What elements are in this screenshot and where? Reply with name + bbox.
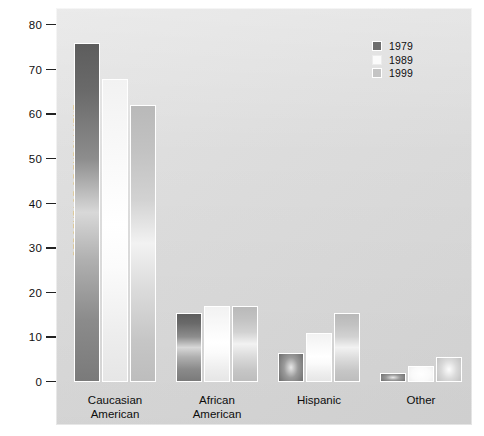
y-axis-tick-label: 10 (29, 330, 42, 344)
legend-item-1999: 1999 (372, 67, 413, 79)
y-axis-tick-label: 70 (29, 63, 42, 77)
y-axis-tick: 40 (0, 197, 56, 211)
legend-item-1989: 1989 (372, 54, 413, 66)
bar-1979-2 (176, 313, 202, 382)
bar-1989-1 (102, 79, 128, 382)
y-axis-tick-label: 50 (29, 152, 42, 166)
bar-1999-3 (334, 313, 360, 382)
y-axis-tick-label: 40 (29, 197, 42, 211)
x-axis-label-line1: Other (361, 394, 481, 408)
y-axis-tick-mark (46, 247, 56, 248)
y-axis-tick: 10 (0, 330, 56, 344)
legend-label-1979: 1979 (389, 40, 413, 52)
y-axis-tick-label: 30 (29, 241, 42, 255)
bar-1979-1 (74, 43, 100, 382)
y-axis-tick-mark (46, 113, 56, 114)
chart-screenshot: 01020304050607080 PERCENTAGE OF ENROLLME… (0, 0, 484, 436)
legend-item-1979: 1979 (372, 40, 413, 52)
y-axis-tick: 30 (0, 241, 56, 255)
bar-1979-4 (380, 373, 406, 382)
y-axis-tick-mark (46, 69, 56, 70)
y-axis-tick-label: 0 (35, 375, 42, 389)
y-axis-tick: 50 (0, 152, 56, 166)
chart-legend: 197919891999 (372, 40, 413, 81)
y-axis-tick: 0 (0, 375, 56, 389)
y-axis-tick: 60 (0, 107, 56, 121)
legend-swatch-1999 (372, 68, 382, 78)
y-axis-tick: 70 (0, 63, 56, 77)
y-axis-tick: 20 (0, 286, 56, 300)
bar-1979-3 (278, 353, 304, 382)
y-axis-tick-mark (46, 381, 56, 382)
bar-1999-1 (130, 105, 156, 382)
bar-1989-4 (408, 366, 434, 382)
legend-label-1989: 1989 (389, 54, 413, 66)
x-axis-label-line2: American (157, 408, 277, 422)
bar-1989-2 (204, 306, 230, 382)
y-axis-tick-mark (46, 336, 56, 337)
y-axis-tick-mark (46, 203, 56, 204)
y-axis-tick-label: 80 (29, 18, 42, 32)
legend-swatch-1979 (372, 41, 382, 51)
y-axis-tick-mark (46, 24, 56, 25)
x-axis-label-4: Other (361, 394, 481, 408)
y-axis-tick-label: 20 (29, 286, 42, 300)
bar-1999-2 (232, 306, 258, 382)
y-axis-tick-label: 60 (29, 107, 42, 121)
y-axis-tick: 80 (0, 18, 56, 32)
y-axis-tick-mark (46, 292, 56, 293)
bar-1999-4 (436, 357, 462, 382)
legend-label-1999: 1999 (389, 67, 413, 79)
legend-swatch-1989 (372, 55, 382, 65)
bar-1989-3 (306, 333, 332, 382)
y-axis-tick-mark (46, 158, 56, 159)
